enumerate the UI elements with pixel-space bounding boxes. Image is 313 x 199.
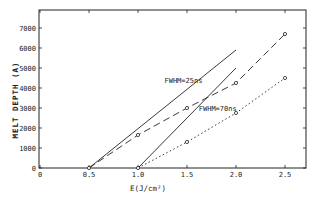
annotations: FWHM=25nsFWHM=70ns	[164, 77, 236, 113]
y-tick-label: 6000	[19, 45, 36, 53]
series-line-1	[89, 34, 285, 168]
x-tick-label: 2.5	[279, 171, 292, 179]
data-point	[283, 76, 286, 79]
y-axis-title: MELT DEPTH (A)	[11, 61, 20, 138]
x-tick-label: 2.0	[230, 171, 243, 179]
data-point	[136, 133, 139, 136]
series-annotation: FWHM=25ns	[164, 77, 202, 85]
series-annotation: FWHM=70ns	[199, 105, 237, 113]
y-tick-label: 2000	[19, 125, 36, 133]
data-point	[234, 81, 237, 84]
y-tick-label: 7000	[19, 25, 36, 33]
x-axis-title: E(J/cm²)	[130, 184, 166, 193]
x-tick-label: 0.5	[83, 171, 96, 179]
data-point	[185, 106, 188, 109]
y-tick-label: 1000	[19, 145, 36, 153]
y-tick-label: 0	[32, 165, 36, 173]
x-tick-label: 1.0	[132, 171, 145, 179]
x-tick-label: 1.5	[181, 171, 194, 179]
y-tick-label: 3000	[19, 105, 36, 113]
y-tick-label: 4000	[19, 85, 36, 93]
data-point	[87, 166, 90, 169]
y-tick-label: 5000	[19, 65, 36, 73]
melt-depth-chart: 00.51.01.52.02.5 01000200030004000500060…	[0, 0, 313, 199]
y-axis: 01000200030004000500060007000	[19, 25, 306, 173]
series-group	[87, 32, 286, 169]
x-axis: 00.51.01.52.02.5	[38, 10, 291, 179]
x-tick-label: 0	[38, 171, 42, 179]
data-point	[136, 166, 139, 169]
plot-frame	[39, 10, 306, 168]
data-point	[283, 32, 286, 35]
data-point	[185, 140, 188, 143]
series-line-3	[138, 78, 285, 168]
